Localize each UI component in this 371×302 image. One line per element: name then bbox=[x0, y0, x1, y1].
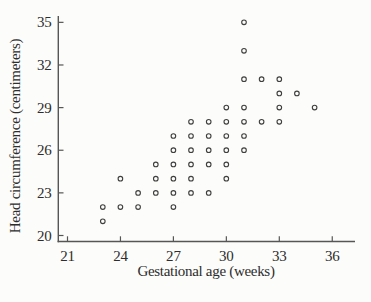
data-point bbox=[189, 162, 194, 167]
data-point bbox=[242, 77, 247, 82]
data-point bbox=[189, 148, 194, 153]
data-point bbox=[206, 134, 211, 139]
data-point bbox=[224, 176, 229, 181]
data-point bbox=[189, 191, 194, 196]
y-tick-label: 32 bbox=[37, 57, 52, 73]
data-point bbox=[189, 134, 194, 139]
data-point bbox=[118, 205, 123, 210]
data-point bbox=[277, 120, 282, 125]
x-axis-title: Gestational age (weeks) bbox=[137, 263, 274, 280]
data-point bbox=[242, 49, 247, 54]
data-point bbox=[136, 191, 141, 196]
data-point bbox=[189, 120, 194, 125]
data-point bbox=[101, 219, 106, 224]
data-point bbox=[118, 176, 123, 181]
y-axis-ticks bbox=[58, 22, 63, 235]
data-points bbox=[101, 20, 317, 224]
data-point bbox=[136, 205, 141, 210]
data-point bbox=[206, 120, 211, 125]
data-point bbox=[171, 205, 176, 210]
data-point bbox=[171, 148, 176, 153]
y-tick-label: 29 bbox=[37, 100, 52, 116]
data-point bbox=[259, 120, 264, 125]
data-point bbox=[277, 77, 282, 82]
y-tick-label: 23 bbox=[37, 185, 52, 201]
data-point bbox=[242, 105, 247, 110]
data-point bbox=[295, 91, 300, 96]
y-tick-label: 35 bbox=[37, 14, 52, 30]
data-point bbox=[224, 148, 229, 153]
data-point bbox=[206, 191, 211, 196]
data-point bbox=[171, 176, 176, 181]
data-point bbox=[242, 134, 247, 139]
plot-canvas: 202326293235 212427303336 bbox=[0, 0, 371, 302]
data-point bbox=[312, 105, 317, 110]
data-point bbox=[154, 191, 159, 196]
data-point bbox=[189, 176, 194, 181]
y-axis-title: Head circumference (centimeters) bbox=[7, 39, 24, 233]
data-point bbox=[171, 162, 176, 167]
data-point bbox=[101, 205, 106, 210]
data-point bbox=[242, 148, 247, 153]
data-point bbox=[277, 91, 282, 96]
data-point bbox=[154, 176, 159, 181]
data-point bbox=[171, 134, 176, 139]
data-point bbox=[224, 162, 229, 167]
y-tick-label: 26 bbox=[37, 142, 52, 158]
data-point bbox=[259, 77, 264, 82]
data-point bbox=[171, 191, 176, 196]
data-point bbox=[206, 162, 211, 167]
data-point bbox=[224, 134, 229, 139]
data-point bbox=[206, 148, 211, 153]
data-point bbox=[224, 120, 229, 125]
y-tick-label: 20 bbox=[37, 228, 52, 244]
data-point bbox=[277, 105, 282, 110]
scatterplot-figure: 202326293235 212427303336 Gestational ag… bbox=[0, 0, 371, 302]
y-axis-tick-labels: 202326293235 bbox=[37, 14, 52, 243]
x-tick-label: 24 bbox=[113, 248, 128, 264]
x-tick-label: 36 bbox=[325, 248, 340, 264]
data-point bbox=[242, 20, 247, 25]
data-point bbox=[224, 105, 229, 110]
data-point bbox=[242, 120, 247, 125]
x-tick-label: 21 bbox=[60, 248, 75, 264]
data-point bbox=[154, 162, 159, 167]
